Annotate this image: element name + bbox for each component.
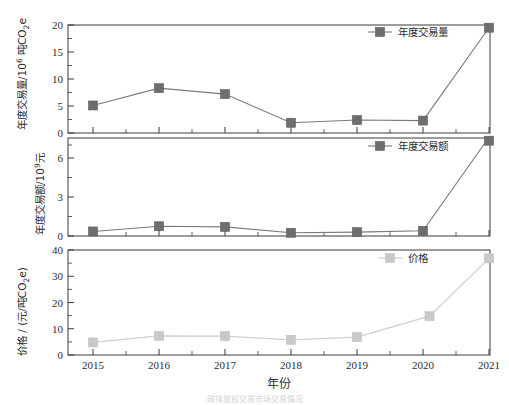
panel-turnover-legend: 年度交易额 xyxy=(368,140,449,152)
x-tick-2016: 2016 xyxy=(148,359,171,371)
panel-volume-ytick-0: 0 xyxy=(58,127,64,139)
panel-turnover-ylabel: 年度交易额/109元 xyxy=(33,152,46,235)
panel-price-ytick-1: 10 xyxy=(52,323,64,335)
legend-marker-volume xyxy=(376,28,385,37)
legend-marker-turnover xyxy=(376,142,385,151)
x-axis-tick-labels: 2015 2016 2017 2018 2019 2020 2021 xyxy=(82,359,500,371)
x-tick-2015: 2015 xyxy=(82,359,105,371)
panel-volume-ytick-3: 15 xyxy=(52,46,64,58)
legend-marker-price xyxy=(386,254,395,263)
legend-label-volume: 年度交易量 xyxy=(398,26,449,38)
x-tick-2017: 2017 xyxy=(214,359,237,371)
panel-price-ytick-2: 20 xyxy=(52,297,64,309)
panel-volume-ytick-1: 5 xyxy=(58,100,64,112)
panel-price-ytick-0: 0 xyxy=(58,349,64,361)
panel-price-ylabel: 价格 / (元/吨CO2e) xyxy=(16,267,31,356)
x-tick-2018: 2018 xyxy=(280,359,303,371)
panel-turnover: 0 3 6 年度交易额/109元 xyxy=(33,136,494,242)
legend-label-turnover: 年度交易额 xyxy=(398,140,449,152)
panel-volume-ylabel: 年度交易量/106 吨CO2e xyxy=(15,18,31,130)
legend-label-price: 价格 xyxy=(408,252,429,264)
panel-volume-ytick-2: 10 xyxy=(52,73,64,85)
panel-price-ytick-4: 40 xyxy=(52,244,64,256)
panel-price-ytick-3: 30 xyxy=(52,270,64,282)
panel-turnover-ytick-1: 3 xyxy=(58,191,64,203)
chart-figure: 0 5 10 15 20 年度交易量/106 xyxy=(0,0,509,405)
x-tick-2019: 2019 xyxy=(346,359,369,371)
panel-volume: 0 5 10 15 20 年度交易量/106 xyxy=(15,18,494,139)
panel-volume-ytick-4: 20 xyxy=(52,19,64,31)
x-tick-2020: 2020 xyxy=(412,359,435,371)
x-axis-label: 年份 xyxy=(267,377,291,391)
panel-turnover-ytick-0: 0 xyxy=(58,230,64,242)
panel-volume-legend: 年度交易量 xyxy=(368,26,449,38)
panel-turnover-frame xyxy=(68,138,490,236)
figure-caption: 碳排放权交易市场交易情况 xyxy=(0,395,509,405)
panel-turnover-ytick-2: 6 xyxy=(58,152,64,164)
panel-price: 0 10 20 30 40 价格 / (元/吨CO2e) xyxy=(16,244,494,361)
chart-svg: 0 5 10 15 20 年度交易量/106 xyxy=(0,0,509,405)
x-tick-2021: 2021 xyxy=(478,359,500,371)
